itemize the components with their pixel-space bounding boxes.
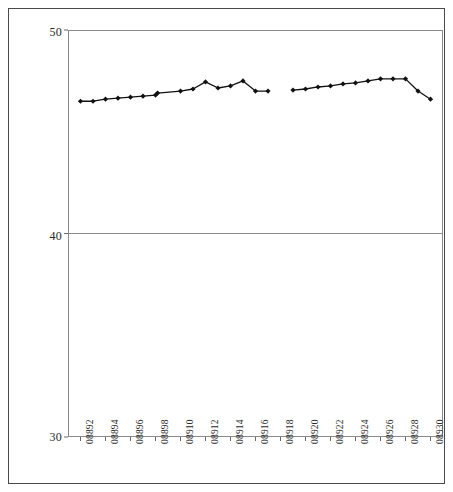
y-axis-tick-label-40: 40 [28, 230, 62, 242]
y-axis-tick-label-30: 30 [28, 431, 62, 443]
x-axis-tick-label-08926: 08926 [385, 419, 395, 444]
x-axis-tick-label-08930: 08930 [435, 419, 445, 444]
x-axis-tick-label-08892: 08892 [85, 419, 95, 444]
x-axis-tick-label-08914: 08914 [235, 419, 245, 444]
x-axis-tick-label-08894: 08894 [110, 419, 120, 444]
chart-plot-region: 50 40 30 0889208894088960889808910089120… [0, 0, 453, 492]
x-axis-tick-label-08916: 08916 [260, 419, 270, 444]
x-axis-ticks [81, 437, 431, 441]
y-axis-tick-label-50: 50 [28, 26, 62, 38]
x-axis-tick-label-08910: 08910 [185, 419, 195, 444]
x-axis-tick-label-08918: 08918 [285, 419, 295, 444]
chart-figure: 50 40 30 0889208894088960889808910089120… [0, 0, 453, 492]
x-axis-tick-label-08912: 08912 [210, 419, 220, 444]
plot-frame [68, 30, 443, 437]
x-axis-tick-label-08920: 08920 [310, 419, 320, 444]
x-axis-tick-label-08928: 08928 [410, 419, 420, 444]
x-axis-tick-label-08922: 08922 [335, 419, 345, 444]
x-axis-tick-label-08896: 08896 [135, 419, 145, 444]
x-axis-tick-label-08898: 08898 [160, 419, 170, 444]
x-axis-tick-label-08924: 08924 [360, 419, 370, 444]
